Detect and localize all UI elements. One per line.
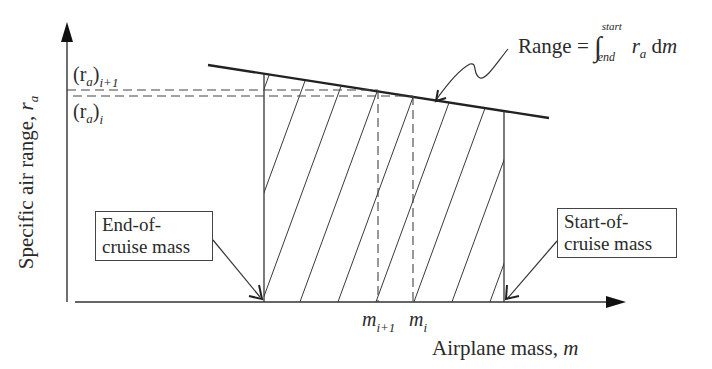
tick-var: (r: [73, 100, 86, 122]
tick-sub: i: [423, 320, 427, 335]
tick-var: m: [362, 308, 376, 330]
tick-sub: i+1: [376, 320, 395, 335]
end-box-line2: cruise mass: [102, 236, 206, 258]
differential: d: [646, 34, 662, 58]
tick-close: ): [93, 63, 100, 85]
hatch-fill: [172, 40, 624, 340]
end-of-cruise-mass-box: End-of- cruise mass: [95, 211, 213, 261]
equation-lhs: Range =: [518, 34, 594, 58]
x-tick-m-i-plus-1: mi+1: [362, 308, 395, 331]
start-box-line2: cruise mass: [564, 233, 670, 255]
integral-lower-limit: end: [598, 50, 615, 65]
range-leader-squiggle: [436, 49, 508, 100]
start-box-line1: Start-of-: [564, 211, 670, 233]
end-box-leader: [213, 240, 260, 297]
y-axis-label: Specific air range, ra: [14, 73, 39, 293]
start-of-cruise-mass-box: Start-of- cruise mass: [557, 208, 677, 258]
tick-sub-a: a: [86, 111, 93, 126]
range-equation: Range = ∫ start end ra dm: [518, 28, 677, 60]
start-box-leader: [507, 241, 557, 299]
y-axis-label-var: r: [14, 102, 38, 110]
tick-sub-a: a: [86, 74, 93, 89]
y-axis-label-text: Specific air range,: [14, 111, 38, 270]
integrand-var: r: [632, 34, 640, 58]
y-axis-label-sub: a: [26, 96, 41, 103]
tick-var: (r: [73, 63, 86, 85]
tick-sub-idx: i: [100, 112, 104, 127]
range-leader-arrowhead: [436, 90, 446, 101]
tick-var: m: [409, 308, 423, 330]
end-box-line1: End-of-: [102, 214, 206, 236]
y-axis-arrowhead: [61, 22, 73, 42]
y-tick-ra-i: (ra)i: [73, 100, 103, 123]
x-axis-label: Airplane mass, m: [432, 336, 578, 361]
x-axis-arrowhead: [606, 296, 626, 308]
tick-close: ): [93, 100, 100, 122]
integral-upper-limit: start: [602, 20, 622, 32]
x-tick-m-i: mi: [409, 308, 427, 331]
differential-var: m: [662, 34, 677, 58]
integrand-sub: a: [640, 46, 647, 61]
x-axis-label-text: Airplane mass,: [432, 336, 563, 360]
tick-sub-idx: i+1: [100, 75, 119, 90]
y-tick-ra-i-plus-1: (ra)i+1: [73, 63, 118, 86]
x-axis-label-var: m: [563, 336, 578, 360]
